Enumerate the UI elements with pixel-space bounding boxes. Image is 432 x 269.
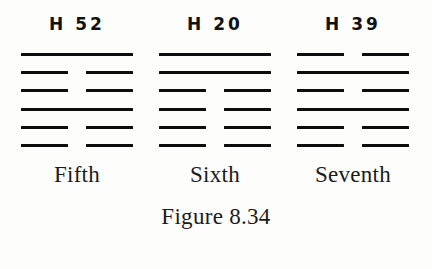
line-segment bbox=[21, 53, 133, 56]
line-segment bbox=[297, 108, 409, 111]
line-segment bbox=[159, 71, 271, 74]
line-segment bbox=[159, 144, 206, 147]
line-segment bbox=[297, 71, 409, 74]
line-segment bbox=[297, 89, 344, 92]
hexagram-label-3: Seventh bbox=[315, 162, 391, 188]
hexagram-lines-2 bbox=[159, 52, 271, 148]
hexagram-line bbox=[297, 107, 409, 111]
figure-caption: Figure 8.34 bbox=[0, 204, 432, 230]
line-segment bbox=[297, 126, 344, 129]
line-segment bbox=[297, 144, 344, 147]
line-segment bbox=[224, 126, 271, 129]
hexagram-line bbox=[297, 126, 409, 130]
line-segment bbox=[86, 126, 133, 129]
line-segment bbox=[86, 71, 133, 74]
hexagram-line bbox=[159, 89, 271, 93]
hexagram-line bbox=[21, 89, 133, 93]
hexagram-line bbox=[21, 70, 133, 74]
line-segment bbox=[21, 144, 68, 147]
line-segment bbox=[159, 126, 206, 129]
hexagram-title-3: H 39 bbox=[325, 14, 381, 34]
line-segment bbox=[159, 89, 206, 92]
line-segment bbox=[297, 53, 344, 56]
hexagram-line bbox=[21, 126, 133, 130]
hexagram-line bbox=[21, 144, 133, 148]
line-segment bbox=[21, 89, 68, 92]
line-segment bbox=[86, 144, 133, 147]
line-segment bbox=[362, 126, 409, 129]
hexagram-line bbox=[297, 52, 409, 56]
hexagram-lines-1 bbox=[21, 52, 133, 148]
hexagram-title-1: H 52 bbox=[49, 14, 105, 34]
hexagram-line bbox=[297, 144, 409, 148]
hexagram-line bbox=[297, 89, 409, 93]
hexagram-line bbox=[159, 107, 271, 111]
hexagram-label-1: Fifth bbox=[54, 162, 100, 188]
hexagram-column-3: H 39 Seventh bbox=[288, 14, 418, 188]
hexagram-line bbox=[21, 52, 133, 56]
line-segment bbox=[362, 53, 409, 56]
hexagram-title-2: H 20 bbox=[187, 14, 243, 34]
hexagram-lines-3 bbox=[297, 52, 409, 148]
hexagram-line bbox=[21, 107, 133, 111]
hexagram-row: H 52 Fifth H 20 Sixth bbox=[0, 14, 432, 188]
line-segment bbox=[362, 144, 409, 147]
hexagram-line bbox=[159, 52, 271, 56]
hexagram-column-2: H 20 Sixth bbox=[150, 14, 280, 188]
line-segment bbox=[86, 89, 133, 92]
line-segment bbox=[224, 144, 271, 147]
hexagram-line bbox=[297, 70, 409, 74]
line-segment bbox=[224, 89, 271, 92]
line-segment bbox=[159, 53, 271, 56]
line-segment bbox=[21, 108, 133, 111]
figure-container: H 52 Fifth H 20 Sixth bbox=[0, 0, 432, 269]
line-segment bbox=[21, 71, 68, 74]
line-segment bbox=[224, 108, 271, 111]
hexagram-line bbox=[159, 144, 271, 148]
line-segment bbox=[21, 126, 68, 129]
line-segment bbox=[362, 89, 409, 92]
hexagram-line bbox=[159, 70, 271, 74]
line-segment bbox=[159, 108, 206, 111]
hexagram-column-1: H 52 Fifth bbox=[12, 14, 142, 188]
hexagram-line bbox=[159, 126, 271, 130]
hexagram-label-2: Sixth bbox=[190, 162, 240, 188]
